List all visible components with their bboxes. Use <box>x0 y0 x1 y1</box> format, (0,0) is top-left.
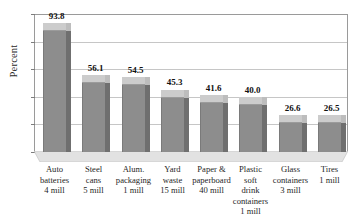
bar-value-label: 40.0 <box>231 86 275 95</box>
bar-front-face <box>200 95 223 152</box>
bar-side-face <box>223 103 228 152</box>
bar-value-label: 45.3 <box>153 78 197 87</box>
bar-top-face <box>82 75 105 83</box>
category-label-line: 1 mill <box>303 175 356 186</box>
bar-value-label: 26.5 <box>310 104 354 113</box>
bar-top-face <box>43 23 66 31</box>
y-axis-title: Percent <box>8 25 22 97</box>
bar-front-face <box>82 75 105 152</box>
bars-group: 93.856.154.545.341.640.026.626.5 <box>34 14 348 152</box>
bar-value-label: 41.6 <box>192 84 236 93</box>
bar-top-face <box>279 115 302 123</box>
bar <box>43 23 66 152</box>
bar-top-bevel <box>262 97 267 105</box>
bar-front-face <box>161 90 184 153</box>
bar-top-face <box>318 115 341 123</box>
bar <box>279 115 302 152</box>
bar-value-label: 54.5 <box>114 66 158 75</box>
bar-side-face <box>105 83 110 152</box>
bar-top-bevel <box>66 23 71 31</box>
floor-shape <box>34 151 348 162</box>
bar-top-bevel <box>145 77 150 85</box>
bar-chart: Percent 020406080100 93.856.154.545.341.… <box>0 0 356 221</box>
bar-side-face <box>184 98 189 153</box>
bar-top-bevel <box>223 95 228 103</box>
category-label-line: 1 mill <box>224 206 278 217</box>
bar-top-bevel <box>105 75 110 83</box>
bar <box>200 95 223 152</box>
x-axis-category-label: Tires1 mill <box>303 164 356 185</box>
bar-side-face <box>302 123 307 152</box>
bar-top-face <box>122 77 145 85</box>
bar-top-bevel <box>302 115 307 123</box>
bar-side-face <box>66 31 71 152</box>
bar-front-face <box>122 77 145 152</box>
bar-front-face <box>239 97 262 152</box>
bar <box>122 77 145 152</box>
bar-top-bevel <box>341 115 346 123</box>
bar-side-face <box>262 105 267 152</box>
bar-side-face <box>341 123 346 152</box>
bar <box>82 75 105 152</box>
x-axis-category-labels: Autobatteries4 millSteelcans5 millAlum.p… <box>34 164 348 221</box>
bar <box>161 90 184 153</box>
category-label-line: containers <box>224 196 278 207</box>
bar <box>239 97 262 152</box>
bar-value-label: 93.8 <box>35 12 79 21</box>
bar-value-label: 26.6 <box>271 104 315 113</box>
category-label-line: Tires <box>303 164 356 175</box>
bar-top-face <box>200 95 223 103</box>
bar <box>318 115 341 152</box>
bar-top-face <box>161 90 184 98</box>
bar-top-bevel <box>184 90 189 98</box>
chart-floor-3d <box>34 151 348 162</box>
bar-value-label: 56.1 <box>74 64 118 73</box>
bar-side-face <box>145 85 150 152</box>
category-label-line: 3 mill <box>264 185 318 196</box>
bar-front-face <box>43 23 66 152</box>
bar-top-face <box>239 97 262 105</box>
